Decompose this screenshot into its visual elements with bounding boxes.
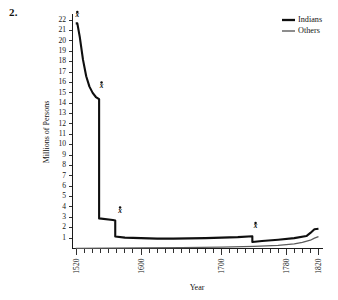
y-axis-ticks: [69, 20, 73, 238]
y-tick-label: 7: [62, 171, 66, 180]
y-tick-label: 13: [58, 108, 66, 117]
figure-root: 2. 12345678910111213141516171819202122 1…: [0, 0, 338, 300]
y-tick-label: 8: [62, 160, 66, 169]
y-tick-label: 17: [58, 67, 66, 76]
y-tick-label: 5: [62, 191, 66, 200]
x-tick-label: 1600: [137, 258, 146, 273]
y-tick-label: 2: [62, 222, 66, 231]
y-tick-label: 12: [58, 119, 66, 128]
annotation-x-label: x: [117, 206, 122, 215]
y-tick-label: 19: [58, 46, 66, 55]
chart-canvas: 12345678910111213141516171819202122 1520…: [0, 0, 338, 300]
y-tick-label: 21: [58, 25, 66, 34]
y-axis-tick-labels: 12345678910111213141516171819202122: [58, 15, 66, 242]
x-tick-label: 1820: [314, 258, 323, 273]
y-axis-title: Millions of Persons: [42, 101, 51, 164]
legend-label-indians: Indians: [298, 15, 322, 24]
annotation-x-label: x: [74, 10, 79, 19]
y-tick-label: 1: [62, 233, 66, 242]
annotation-x-label: x: [99, 81, 104, 90]
x-tick-label: 1700: [217, 258, 226, 273]
series-line-indians: [76, 23, 319, 242]
y-tick-label: 15: [58, 88, 66, 97]
y-tick-label: 22: [58, 15, 66, 24]
y-tick-label: 16: [58, 77, 66, 86]
y-tick-label: 18: [58, 56, 66, 65]
annotation-x-label: x: [253, 221, 258, 230]
x-axis-minor-ticks: [77, 249, 319, 256]
y-tick-label: 6: [62, 181, 66, 190]
annotation-markers: xxxx: [74, 10, 257, 230]
x-axis-title: Year: [190, 283, 205, 292]
x-tick-label: 1780: [282, 258, 291, 273]
y-tick-label: 10: [58, 139, 66, 148]
y-tick-label: 11: [59, 129, 67, 138]
x-axis-tick-labels: 15201600170017801820: [72, 258, 323, 273]
y-tick-label: 20: [58, 36, 66, 45]
legend-label-others: Others: [298, 26, 320, 35]
y-tick-label: 14: [58, 98, 66, 107]
y-tick-label: 4: [62, 202, 66, 211]
y-tick-label: 9: [62, 150, 66, 159]
chart-legend: IndiansOthers: [282, 15, 322, 35]
y-tick-label: 3: [62, 212, 66, 221]
x-tick-label: 1520: [72, 258, 81, 273]
